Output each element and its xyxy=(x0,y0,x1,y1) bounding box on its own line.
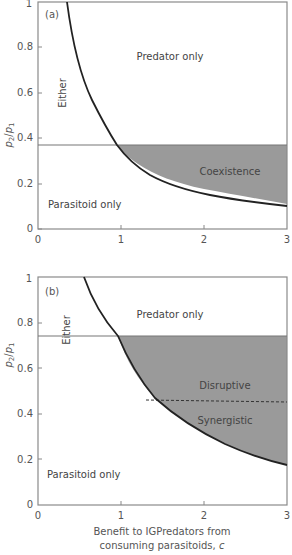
panel-a-xtick-0: 0 xyxy=(35,234,41,245)
panel-a-xtick-2: 2 xyxy=(201,234,207,245)
label-either-b: Either xyxy=(61,314,72,345)
label-either-a: Either xyxy=(57,77,68,108)
panel-b-ytick-0: 0 xyxy=(27,499,33,510)
panel-b-ytick-1: 1 xyxy=(26,273,32,284)
x-axis-title-line1: Benefit to IGPredators from xyxy=(93,526,230,537)
panel-a-ytick-04: 0.4 xyxy=(17,132,33,143)
panel-b-xtick-2: 2 xyxy=(201,510,207,521)
label-predator-only-a: Predator only xyxy=(137,51,204,62)
panel-b-xtick-1: 1 xyxy=(118,510,124,521)
panel-a-y-axis-label: p2/p1 xyxy=(3,122,16,148)
label-disruptive: Disruptive xyxy=(199,380,250,391)
panel-b: 1 0.8 0.6 0.4 0.2 0 0 1 2 3 p2/p1 (b) Pr… xyxy=(3,273,290,551)
panel-b-ytick-06: 0.6 xyxy=(17,363,33,374)
label-parasitoid-only-a: Parasitoid only xyxy=(48,199,122,210)
panel-a-xtick-1: 1 xyxy=(118,234,124,245)
x-axis-title-line2: consuming parasitoids, c xyxy=(100,540,225,551)
panel-b-xtick-3: 3 xyxy=(284,510,290,521)
panel-b-xtick-0: 0 xyxy=(35,510,41,521)
panel-b-ytick-04: 0.4 xyxy=(17,408,33,419)
panel-a-x-ticks xyxy=(121,225,204,229)
panel-a-ytick-08: 0.8 xyxy=(17,41,33,52)
label-parasitoid-only-b: Parasitoid only xyxy=(47,469,121,480)
panel-b-ytick-08: 0.8 xyxy=(17,317,33,328)
panel-a: 1 0.8 0.6 0.4 0.2 0 0 1 2 3 p2/p1 (a) Pr… xyxy=(3,0,290,245)
panel-a-tag: (a) xyxy=(45,9,59,20)
panel-a-ytick-06: 0.6 xyxy=(17,87,33,98)
label-coexistence: Coexistence xyxy=(199,166,260,177)
panel-a-ytick-02: 0.2 xyxy=(17,178,33,189)
label-synergistic: Synergistic xyxy=(197,415,252,426)
panel-a-xtick-3: 3 xyxy=(284,234,290,245)
label-predator-only-b: Predator only xyxy=(137,309,204,320)
panel-b-y-axis-label: p2/p1 xyxy=(3,342,16,368)
panel-a-ytick-0: 0 xyxy=(27,223,33,234)
panel-b-x-ticks xyxy=(121,501,204,505)
panel-a-ytick-1: 1 xyxy=(26,0,32,9)
panel-b-tag: (b) xyxy=(45,286,59,297)
figure: 1 0.8 0.6 0.4 0.2 0 0 1 2 3 p2/p1 (a) Pr… xyxy=(0,0,292,555)
panel-b-ytick-02: 0.2 xyxy=(17,454,33,465)
